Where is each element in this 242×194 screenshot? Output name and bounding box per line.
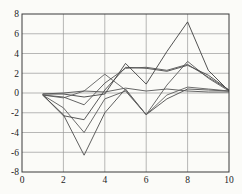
series-7-line <box>43 64 229 104</box>
series-4-line <box>43 22 229 97</box>
x-tick-label: 2 <box>61 175 66 185</box>
y-tick-label: 0 <box>14 88 19 98</box>
y-tick-label: -2 <box>11 108 19 118</box>
plot-area: 0246810 86420-2-4-6-8 <box>0 0 242 194</box>
y-tick-label: -6 <box>11 148 19 158</box>
y-tick-label: 4 <box>14 49 19 59</box>
y-tick-label: 6 <box>14 29 19 39</box>
y-tick-label: -8 <box>11 167 19 177</box>
series-5-line <box>43 74 229 115</box>
x-tick-label: 8 <box>185 175 190 185</box>
grid-lines <box>22 14 229 172</box>
y-tick-label: 2 <box>14 69 19 79</box>
y-axis-tick-labels: 86420-2-4-6-8 <box>11 9 19 177</box>
x-axis-tick-labels: 0246810 <box>20 175 234 185</box>
series-1-line <box>43 89 229 155</box>
line-chart-figure: 0246810 86420-2-4-6-8 <box>0 0 242 194</box>
y-tick-label: 8 <box>14 9 19 19</box>
x-tick-label: 10 <box>224 175 234 185</box>
x-tick-label: 0 <box>20 175 25 185</box>
series-lines <box>43 22 229 155</box>
x-tick-label: 4 <box>102 175 107 185</box>
x-tick-label: 6 <box>144 175 149 185</box>
y-tick-label: -4 <box>11 128 19 138</box>
